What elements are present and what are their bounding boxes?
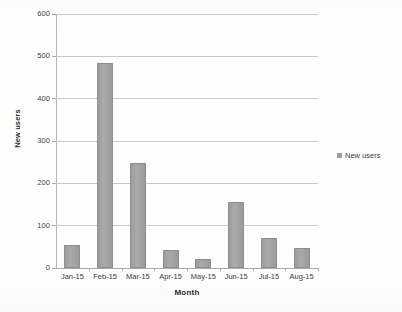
x-tick-label: Aug-15 <box>285 272 318 282</box>
x-axis-title: Month <box>56 288 318 297</box>
y-axis-tick-labels: 0100200300400500600 <box>14 14 50 268</box>
plot-area <box>56 14 318 268</box>
legend-swatch-new-users <box>337 153 342 158</box>
x-tick-mark <box>253 268 254 271</box>
y-tick-label: 600 <box>20 10 50 18</box>
bar <box>195 259 211 268</box>
bar <box>228 202 244 268</box>
x-tick-mark <box>220 268 221 271</box>
y-tick-label: 100 <box>20 222 50 230</box>
x-tick-mark <box>89 268 90 271</box>
x-tick-mark <box>154 268 155 271</box>
y-tick-label: 200 <box>20 179 50 187</box>
bar <box>294 248 310 268</box>
bars-layer <box>56 14 318 268</box>
bar-chart-figure: New users 0100200300400500600 Jan-15Feb-… <box>0 0 402 312</box>
x-tick-label: Jan-15 <box>56 272 89 282</box>
bar <box>97 63 113 268</box>
x-tick-label: Apr-15 <box>154 272 187 282</box>
chart-legend: New users <box>337 151 380 160</box>
x-tick-mark <box>122 268 123 271</box>
x-tick-mark <box>318 268 319 271</box>
x-tick-mark <box>285 268 286 271</box>
x-tick-label: Jul-15 <box>253 272 286 282</box>
x-tick-mark <box>187 268 188 271</box>
bar <box>64 245 80 268</box>
y-tick-label: 300 <box>20 137 50 145</box>
x-tick-label: Mar-15 <box>122 272 155 282</box>
y-tick-label: 400 <box>20 95 50 103</box>
bar <box>163 250 179 268</box>
x-tick-label: Jun-15 <box>220 272 253 282</box>
bar <box>130 163 146 268</box>
x-axis-tick-labels: Jan-15Feb-15Mar-15Apr-15May-15Jun-15Jul-… <box>56 272 318 286</box>
y-tick-label: 0 <box>20 264 50 272</box>
x-tick-label: Feb-15 <box>89 272 122 282</box>
x-tick-label: May-15 <box>187 272 220 282</box>
bar <box>261 238 277 268</box>
y-tick-label: 500 <box>20 52 50 60</box>
legend-label-new-users: New users <box>345 151 380 160</box>
